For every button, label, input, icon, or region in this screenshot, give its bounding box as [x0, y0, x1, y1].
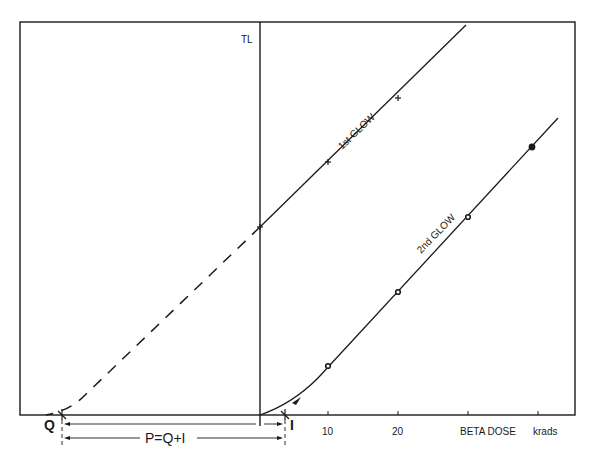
p-equation-label: P=Q+I — [145, 430, 185, 446]
x-axis-unit: krads — [533, 426, 557, 437]
tl-dose-diagram: TL 10 20 BETA DOSE krads 1st GLOW 2nd GL… — [0, 0, 592, 463]
q-label: Q — [44, 417, 55, 433]
tl-axis-label: TL — [241, 34, 253, 45]
first-glow-label: 1st GLOW — [336, 111, 378, 152]
plot-frame — [20, 22, 575, 415]
x-tick-10: 10 — [322, 426, 334, 437]
first-glow-markers — [257, 95, 401, 230]
x-tick-20: 20 — [392, 426, 404, 437]
x-axis-label: BETA DOSE — [460, 426, 516, 437]
second-glow-line — [260, 118, 558, 415]
i-label: I — [290, 417, 294, 433]
first-glow-extrapolation — [46, 227, 260, 415]
